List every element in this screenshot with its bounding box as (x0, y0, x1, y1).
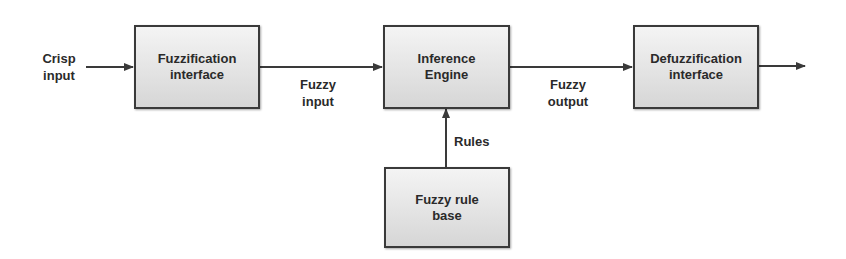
fuzzy-output-label-line2: output (538, 93, 598, 110)
fuzzy-rule-base-box: Fuzzy rule base (384, 167, 510, 248)
fuzzification-line2: interface (158, 67, 237, 83)
crisp-input-label-line1: Crisp (34, 50, 84, 67)
inference-line1: Inference (418, 51, 476, 67)
fuzzy-output-label: Fuzzy output (538, 76, 598, 110)
rules-label-text: Rules (454, 134, 489, 149)
fuzzy-input-label-line2: input (293, 93, 343, 110)
fuzzification-interface-box: Fuzzification interface (134, 25, 260, 109)
crisp-input-label-line2: input (34, 67, 84, 84)
defuzzification-interface-box: Defuzzification interface (633, 25, 759, 109)
defuzzification-line2: interface (650, 67, 742, 83)
fuzzy-input-label-line1: Fuzzy (293, 76, 343, 93)
fuzzy-input-label: Fuzzy input (293, 76, 343, 110)
fuzzy-output-label-line1: Fuzzy (538, 76, 598, 93)
rulebase-line2: base (415, 208, 479, 224)
defuzzification-line1: Defuzzification (650, 51, 742, 67)
fuzzification-line1: Fuzzification (158, 51, 237, 67)
rulebase-line1: Fuzzy rule (415, 192, 479, 208)
inference-engine-box: Inference Engine (383, 25, 510, 109)
crisp-input-label: Crisp input (34, 50, 84, 84)
rules-label: Rules (454, 133, 500, 150)
inference-line2: Engine (418, 67, 476, 83)
